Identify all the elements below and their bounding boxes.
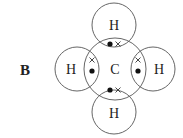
electron-cross-right <box>136 58 141 63</box>
atom-h-left: H <box>66 62 76 77</box>
diagram-label: B <box>20 62 30 78</box>
atom-h-top: H <box>109 18 119 33</box>
electron-cross-left <box>90 58 95 63</box>
electron-dot-bottom <box>107 87 112 92</box>
atom-h-bottom: H <box>109 106 119 121</box>
atom-h-right: H <box>154 62 164 77</box>
methane-dot-cross-diagram: B H H H H C <box>0 0 183 138</box>
atom-c-center: C <box>110 62 119 77</box>
electron-dot-right <box>135 68 140 73</box>
electron-dot-top <box>107 41 112 46</box>
electron-dot-left <box>89 68 94 73</box>
electron-cross-top <box>116 42 121 47</box>
